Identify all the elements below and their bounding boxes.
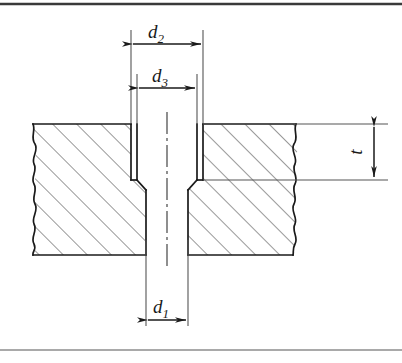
dimension-t: t [345,127,374,177]
dimension-d2: d2 [133,21,201,46]
dimension-label-d1: d1 [153,296,169,321]
dimension-d1: d1 [148,296,186,321]
dimension-label-d3: d3 [152,65,169,90]
technical-drawing: d2 d3 d1 t [0,0,402,363]
dimension-symbol-d3: d [152,65,162,86]
dimension-label-t: t [345,149,366,155]
dimension-symbol-t: t [345,149,366,155]
section-hatching [20,110,320,275]
dimension-subscript-d2: 2 [158,31,165,46]
dimension-subscript-d1: 1 [163,306,170,321]
dimension-label-d2: d2 [148,21,165,46]
figure-container: d2 d3 d1 t [0,0,402,363]
dimension-symbol-d2: d [148,21,158,42]
dimension-d3: d3 [139,65,195,90]
dimension-symbol-d1: d [153,296,163,317]
dimension-subscript-d3: 3 [161,75,169,90]
